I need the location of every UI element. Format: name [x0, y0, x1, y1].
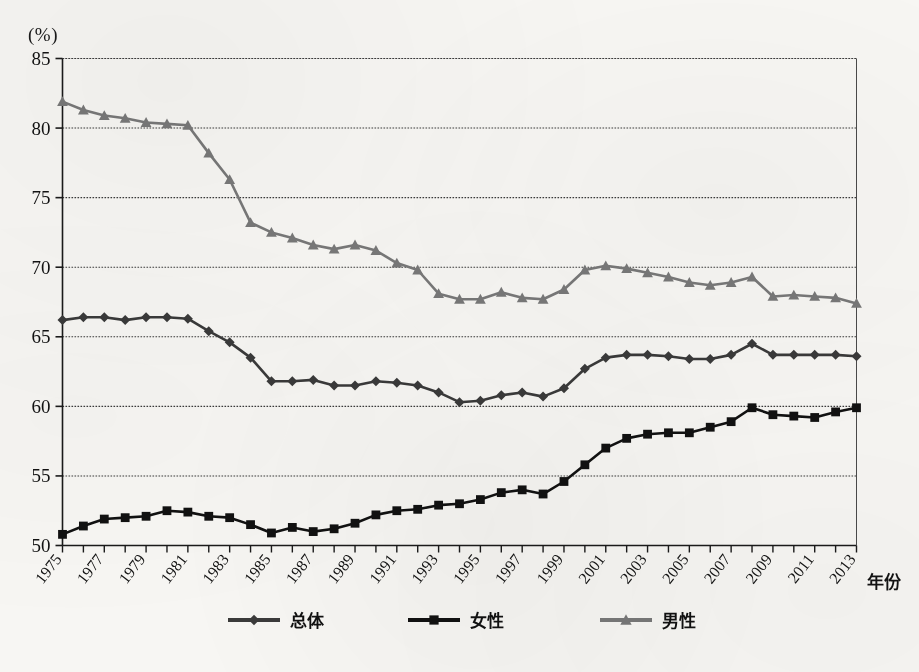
x-tick-label: 1999 — [533, 551, 566, 587]
marker-diamond — [517, 387, 527, 397]
marker-square — [392, 506, 401, 515]
marker-square — [622, 434, 631, 443]
x-axis-title: 年份 — [867, 572, 902, 592]
marker-diamond — [141, 312, 151, 322]
marker-diamond — [538, 392, 548, 402]
marker-triangle — [57, 96, 68, 106]
marker-square — [560, 477, 569, 486]
marker-triangle — [496, 287, 507, 297]
marker-square — [685, 428, 694, 437]
marker-diamond — [249, 615, 260, 626]
marker-diamond — [287, 376, 297, 386]
y-tick-label: 80 — [32, 118, 51, 139]
marker-diamond — [58, 315, 68, 325]
y-tick-label: 85 — [32, 48, 51, 69]
marker-square — [643, 430, 652, 439]
marker-diamond — [162, 312, 172, 322]
y-tick-label: 65 — [32, 326, 51, 347]
x-tick-label: 2001 — [575, 551, 608, 587]
marker-square — [831, 408, 840, 417]
marker-diamond — [434, 387, 444, 397]
marker-square — [288, 523, 297, 532]
y-tick-label: 60 — [32, 396, 51, 417]
x-tick-label: 1989 — [324, 551, 357, 587]
marker-square — [664, 428, 673, 437]
marker-square — [518, 485, 527, 494]
marker-diamond — [852, 351, 862, 361]
x-tick-label: 2009 — [742, 551, 775, 587]
marker-square — [497, 488, 506, 497]
legend-item-2: 女性 — [408, 611, 504, 631]
chart-page: (%) 5055606570758085 1975197719791981198… — [0, 0, 919, 672]
legend-item-1: 总体 — [228, 611, 325, 631]
marker-square — [539, 490, 548, 499]
series-1 — [58, 312, 862, 407]
x-tick-label: 1997 — [491, 551, 524, 587]
series-2 — [58, 403, 861, 538]
marker-diamond — [768, 350, 778, 360]
marker-square — [58, 530, 67, 539]
marker-diamond — [308, 375, 318, 385]
marker-square — [142, 512, 151, 521]
marker-square — [204, 512, 213, 521]
marker-diamond — [329, 380, 339, 390]
marker-square — [810, 413, 819, 422]
y-tick-label: 50 — [32, 535, 51, 556]
x-tick-label: 1983 — [199, 551, 232, 587]
marker-square — [79, 522, 88, 531]
marker-triangle — [747, 272, 758, 282]
marker-diamond — [684, 354, 694, 364]
marker-diamond — [663, 351, 673, 361]
series-lines — [57, 96, 862, 539]
marker-diamond — [392, 378, 402, 388]
x-tick-label: 2005 — [659, 551, 692, 587]
marker-square — [163, 506, 172, 515]
x-tick-label: 1987 — [283, 551, 316, 587]
marker-square — [351, 519, 360, 528]
marker-diamond — [78, 312, 88, 322]
series-line — [63, 317, 857, 402]
line-chart: 5055606570758085 19751977197919811983198… — [0, 0, 919, 672]
marker-square — [267, 529, 276, 538]
marker-diamond — [413, 380, 423, 390]
marker-diamond — [350, 380, 360, 390]
x-axis-ticks: 1975197719791981198319851987198919911993… — [32, 546, 859, 587]
x-tick-label: 1977 — [74, 551, 107, 587]
marker-square — [769, 410, 778, 419]
marker-diamond — [747, 339, 757, 349]
marker-diamond — [831, 350, 841, 360]
marker-square — [789, 412, 798, 421]
x-tick-label: 1981 — [157, 551, 190, 587]
marker-square — [748, 403, 757, 412]
marker-square — [580, 460, 589, 469]
x-tick-label: 2013 — [826, 551, 859, 587]
marker-square — [727, 417, 736, 426]
x-tick-label: 1979 — [115, 551, 148, 587]
x-tick-label: 2007 — [700, 551, 733, 587]
x-tick-label: 2011 — [784, 551, 817, 586]
x-tick-label: 2003 — [617, 551, 650, 587]
series-line — [63, 102, 857, 304]
marker-diamond — [705, 354, 715, 364]
marker-square — [413, 505, 422, 514]
marker-square — [601, 444, 610, 453]
grid-lines — [63, 59, 857, 476]
legend-label: 总体 — [290, 611, 325, 631]
y-axis-ticks: 5055606570758085 — [32, 48, 63, 556]
marker-square — [429, 615, 438, 624]
marker-square — [434, 501, 443, 510]
marker-square — [183, 508, 192, 517]
y-tick-label: 75 — [32, 187, 51, 208]
legend-label: 女性 — [470, 611, 504, 631]
marker-diamond — [496, 390, 506, 400]
marker-square — [121, 513, 130, 522]
marker-diamond — [601, 353, 611, 363]
marker-square — [852, 403, 861, 412]
series-line — [63, 408, 857, 535]
marker-diamond — [455, 397, 465, 407]
marker-triangle — [245, 217, 256, 227]
x-tick-label: 1975 — [32, 551, 65, 587]
marker-diamond — [371, 376, 381, 386]
x-tick-label: 1991 — [366, 551, 399, 587]
marker-diamond — [810, 350, 820, 360]
